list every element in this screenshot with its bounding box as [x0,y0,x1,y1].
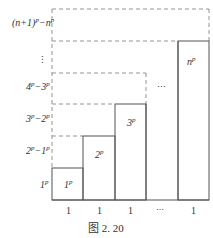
figure-caption: 图 2. 20 [88,222,124,234]
label-3p-2p: 3p−2p [25,112,50,124]
bar-2 [83,136,115,200]
middle-dots: ⋯ [157,82,166,92]
bar-labels: 1p 2p 3p ⋯ np [64,55,196,190]
width-label-dots: ⋯ [156,205,164,214]
width-label-n: 1 [191,205,196,216]
label-2p-1p: 2p−1p [26,144,50,156]
bar-label-2: 2p [95,148,104,160]
width-label-1: 1 [66,205,71,216]
bar-label-n: np [187,55,196,67]
width-label-3: 1 [128,205,133,216]
width-labels: 1 1 1 ⋯ 1 [66,205,196,216]
label-vdots: ⋮ [38,55,47,65]
label-4p-3p: 4p−3p [26,80,50,92]
bar-label-3: 3p [126,116,136,128]
bar-gap [146,104,178,200]
width-label-2: 1 [97,205,102,216]
bar-label-1: 1p [64,178,73,190]
label-1p: 1p [40,178,49,190]
bar-n [178,41,209,200]
staircase-diagram: (n+1)p−np ⋮ 4p−3p 3p−2p 2p−1p 1p 1p 2p 3… [0,0,213,238]
label-n1p-np: (n+1)p−np [12,16,55,29]
dashed-guides [52,9,209,168]
y-axis-labels: (n+1)p−np ⋮ 4p−3p 3p−2p 2p−1p 1p [12,16,55,190]
